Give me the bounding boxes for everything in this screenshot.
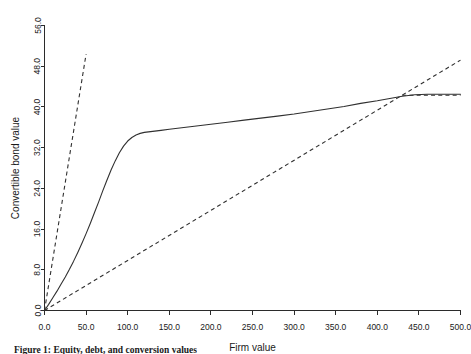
figure-caption: Figure 1: Equity, debt, and conversion v… — [14, 344, 197, 354]
x-axis-title: Firm value — [229, 342, 276, 353]
y-tick-label: 8.0 — [33, 264, 43, 276]
series-straight-bond-value — [45, 54, 87, 311]
x-tick-label: 100.0 — [117, 322, 139, 332]
tick-labels-group: 0.08.016.024.032.040.048.056.00.050.0100… — [33, 17, 471, 332]
x-tick-label: 50.0 — [78, 322, 95, 332]
y-axis-title: Convertible bond value — [10, 116, 21, 219]
x-tick-label: 250.0 — [242, 322, 264, 332]
series-convertible-bond-value — [45, 94, 461, 310]
ticks-group — [41, 26, 461, 315]
x-tick-label: 500.0 — [450, 322, 471, 332]
series-conversion-value — [45, 60, 461, 310]
x-tick-label: 350.0 — [325, 322, 347, 332]
x-tick-label: 400.0 — [367, 322, 389, 332]
data-series-group — [45, 54, 461, 311]
axes-group — [45, 26, 461, 311]
x-tick-label: 200.0 — [200, 322, 222, 332]
x-tick-label: 300.0 — [283, 322, 305, 332]
y-tick-label: 48.0 — [33, 58, 43, 75]
y-tick-label: 24.0 — [33, 180, 43, 197]
y-tick-label: 56.0 — [33, 17, 43, 34]
axis-titles-group: Firm valueConvertible bond value — [10, 116, 277, 352]
x-tick-label: 450.0 — [408, 322, 430, 332]
y-tick-label: 0.0 — [33, 304, 43, 316]
x-tick-label: 0.0 — [39, 322, 51, 332]
y-tick-label: 32.0 — [33, 139, 43, 156]
y-tick-label: 40.0 — [33, 98, 43, 115]
x-tick-label: 150.0 — [159, 322, 181, 332]
y-tick-label: 16.0 — [33, 221, 43, 238]
